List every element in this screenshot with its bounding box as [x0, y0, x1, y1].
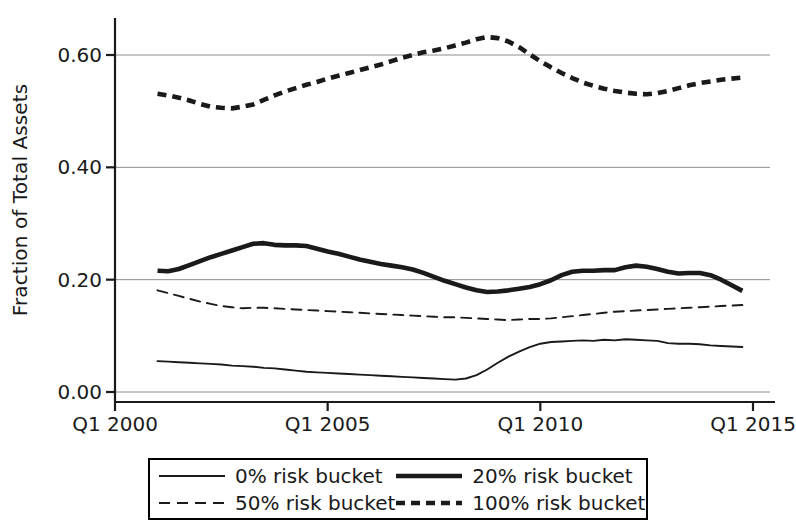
series-line-50-risk-bucket: [158, 290, 743, 320]
legend-swatch-100-risk-bucket: [395, 497, 463, 509]
chart-legend: 0% risk bucket20% risk bucket50% risk bu…: [148, 458, 648, 520]
legend-item: 100% risk bucket: [395, 491, 645, 515]
legend-swatch-20-risk-bucket: [395, 470, 463, 482]
legend-item-label: 0% risk bucket: [235, 464, 383, 488]
legend-item: 0% risk bucket: [158, 464, 395, 488]
series-line-0-risk-bucket: [158, 339, 743, 379]
legend-swatch-0-risk-bucket: [158, 470, 226, 482]
series-line-100-risk-bucket: [158, 37, 743, 108]
legend-item: 20% risk bucket: [395, 464, 645, 488]
series-line-20-risk-bucket: [158, 243, 743, 292]
legend-item: 50% risk bucket: [158, 491, 395, 515]
legend-item-label: 20% risk bucket: [472, 464, 632, 488]
legend-item-label: 50% risk bucket: [235, 491, 395, 515]
legend-item-label: 100% risk bucket: [472, 491, 645, 515]
legend-swatch-50-risk-bucket: [158, 497, 226, 509]
